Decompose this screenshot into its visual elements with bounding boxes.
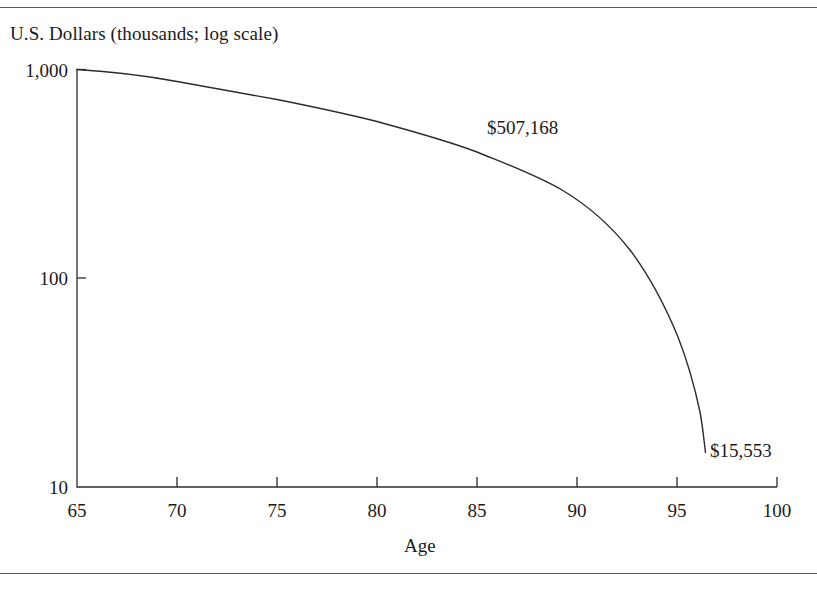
figure-page: U.S. Dollars (thousands; log scale) 1,00… bbox=[0, 0, 817, 590]
y-tick-label-100: 100 bbox=[2, 269, 68, 288]
x-tick-label-80: 80 bbox=[347, 501, 407, 520]
x-tick-label-75: 75 bbox=[247, 501, 307, 520]
x-tick-label-70: 70 bbox=[147, 501, 207, 520]
annotation-value-final: $15,553 bbox=[710, 441, 772, 460]
x-tick-label-65: 65 bbox=[47, 501, 107, 520]
y-axis-ticks bbox=[77, 70, 86, 279]
y-tick-label-10: 10 bbox=[2, 478, 68, 497]
y-tick-label-1000: 1,000 bbox=[2, 61, 68, 80]
axis-spine bbox=[77, 69, 777, 487]
x-tick-label-85: 85 bbox=[447, 501, 507, 520]
x-tick-label-100: 100 bbox=[747, 501, 807, 520]
x-axis-title: Age bbox=[404, 536, 436, 555]
annotation-value-high: $507,168 bbox=[487, 118, 558, 137]
x-tick-label-95: 95 bbox=[647, 501, 707, 520]
data-curve-portfolio-balance bbox=[77, 70, 706, 453]
x-tick-label-90: 90 bbox=[547, 501, 607, 520]
x-axis-ticks bbox=[177, 477, 777, 487]
